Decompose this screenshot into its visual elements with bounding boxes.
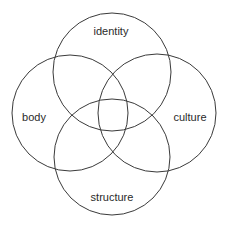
- venn-diagram: identity body culture structure: [0, 0, 226, 228]
- structure-label: structure: [91, 191, 134, 203]
- identity-label: identity: [94, 25, 129, 37]
- culture-label: culture: [173, 111, 206, 123]
- body-label: body: [22, 111, 46, 123]
